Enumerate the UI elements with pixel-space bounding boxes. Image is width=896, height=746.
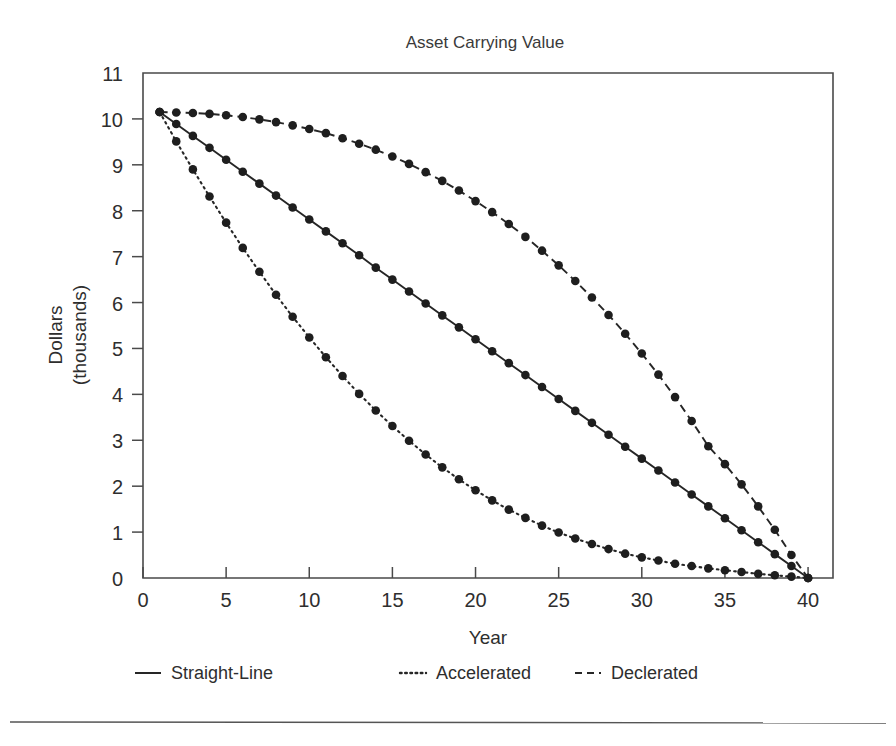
y-tick-label: 8 [112,201,123,223]
data-point-marker [338,134,347,143]
data-point-marker [721,460,730,469]
data-point-marker [604,545,613,554]
data-point-marker [504,359,513,368]
data-point-marker [488,496,497,505]
data-point-marker [421,450,430,459]
data-point-marker [721,566,730,575]
data-point-marker [355,251,364,260]
data-point-marker [305,215,314,224]
data-point-marker [571,277,580,286]
x-tick-label: 35 [714,589,736,611]
y-tick-label: 0 [112,568,123,590]
x-tick-label: 15 [381,589,403,611]
data-point-marker [787,572,796,581]
data-point-marker [687,562,696,571]
x-axis-title: Year [469,627,508,648]
data-point-marker [189,109,198,118]
data-point-marker [371,263,380,272]
y-tick-label: 9 [112,155,123,177]
data-point-marker [721,514,730,523]
y-tick-label: 3 [112,430,123,452]
data-point-marker [305,125,314,134]
y-tick-label: 5 [112,338,123,360]
data-point-marker [222,218,231,227]
data-point-marker [322,227,331,236]
data-point-marker [787,562,796,571]
data-point-marker [754,538,763,547]
data-point-marker [604,430,613,439]
data-point-marker [538,246,547,255]
data-point-marker [654,466,663,475]
data-point-marker [255,267,264,276]
x-tick-label: 40 [797,589,819,611]
data-point-marker [588,293,597,302]
data-point-marker [671,478,680,487]
data-point-marker [238,244,247,253]
legend-label: Declerated [611,663,698,683]
data-point-marker [671,559,680,568]
data-point-marker [255,115,264,124]
data-point-marker [488,347,497,356]
data-point-marker [671,393,680,402]
data-point-marker [471,197,480,206]
data-point-marker [455,475,464,484]
data-point-marker [538,521,547,530]
data-point-marker [621,442,630,451]
x-tick-label: 0 [137,589,148,611]
data-point-marker [455,323,464,332]
y-tick-label: 7 [112,247,123,269]
data-point-marker [405,436,414,445]
y-tick-label: 2 [112,476,123,498]
data-point-marker [521,371,530,380]
data-point-marker [388,152,397,161]
data-point-marker [554,528,563,537]
data-point-marker [355,139,364,148]
data-point-marker [754,502,763,511]
data-point-marker [371,145,380,154]
data-point-marker [521,233,530,242]
data-point-marker [288,203,297,212]
data-point-marker [388,422,397,431]
data-point-marker [288,312,297,321]
data-point-marker [737,526,746,535]
data-point-marker [322,353,331,362]
data-point-marker [272,290,281,299]
y-tick-label: 6 [112,293,123,315]
data-point-marker [355,390,364,399]
page-background [0,0,896,746]
data-point-marker [787,551,796,560]
data-point-marker [338,372,347,381]
data-point-marker [238,167,247,176]
data-point-marker [189,132,198,141]
data-point-marker [238,113,247,122]
data-point-marker [438,311,447,320]
data-point-marker [172,137,181,146]
y-tick-label: 1 [112,522,123,544]
data-point-marker [421,299,430,308]
footer-divider [10,722,886,723]
data-point-marker [172,120,181,129]
data-point-marker [804,574,813,583]
data-point-marker [554,395,563,404]
data-point-marker [322,129,331,138]
y-tick-label: 10 [101,109,123,131]
legend-label: Accelerated [436,663,531,683]
data-point-marker [222,155,231,164]
data-point-marker [638,349,647,358]
data-point-marker [704,442,713,451]
data-point-marker [621,549,630,558]
data-point-marker [405,287,414,296]
data-point-marker [588,419,597,428]
y-axis-title-line1: Dollars [45,305,66,364]
data-point-marker [255,179,264,188]
data-point-marker [189,165,198,174]
data-point-marker [504,505,513,514]
data-point-marker [604,311,613,320]
data-point-marker [638,454,647,463]
legend-label: Straight-Line [171,663,273,683]
data-point-marker [771,571,780,580]
data-point-marker [771,526,780,535]
data-point-marker [338,239,347,248]
data-point-marker [571,534,580,543]
y-axis-title-line2: (thousands) [69,285,90,385]
